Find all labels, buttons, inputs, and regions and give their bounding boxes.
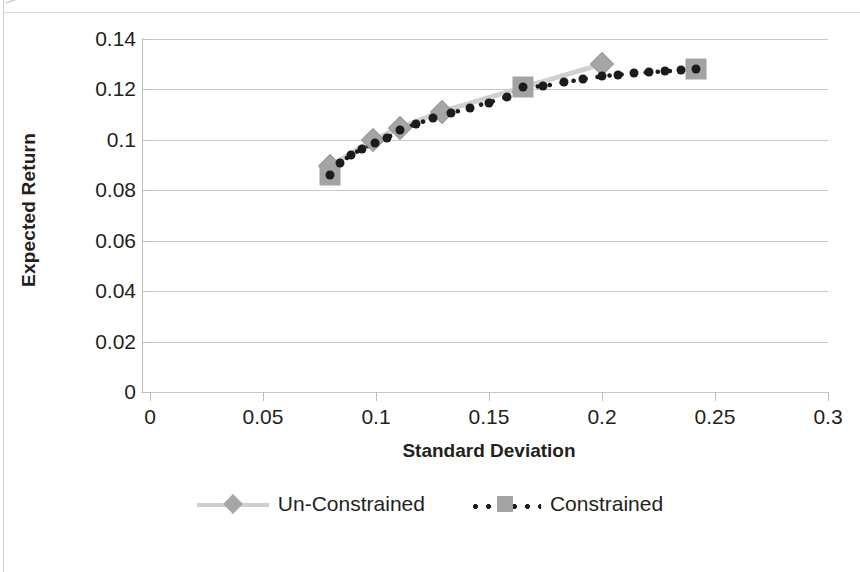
y-axis-tick bbox=[142, 140, 150, 141]
y-axis-tick-label: 0.04 bbox=[95, 279, 136, 303]
data-point-dot bbox=[485, 98, 494, 107]
x-axis-tick-label: 0.15 bbox=[469, 405, 510, 429]
chart-legend: Un-Constrained Constrained bbox=[0, 492, 860, 516]
data-point-dot bbox=[598, 72, 607, 81]
x-axis-tick-label: 0.3 bbox=[813, 405, 842, 429]
x-axis-tick-label: 0.1 bbox=[361, 405, 390, 429]
data-point-dot bbox=[539, 82, 548, 91]
square-marker-icon bbox=[497, 496, 513, 512]
data-point-dot bbox=[446, 109, 455, 118]
series-lines bbox=[150, 39, 828, 392]
data-point-dot bbox=[661, 67, 670, 76]
x-axis-tick bbox=[828, 392, 829, 401]
series-layer bbox=[150, 39, 828, 392]
data-point-dot bbox=[358, 144, 367, 153]
x-axis-title-label: Standard Deviation bbox=[402, 440, 575, 461]
y-axis-tick bbox=[142, 342, 150, 343]
data-point-dot bbox=[629, 69, 638, 78]
x-axis-tick bbox=[263, 392, 264, 401]
legend-label-unconstrained: Un-Constrained bbox=[278, 492, 425, 516]
x-axis-tick-label: 0.2 bbox=[587, 405, 616, 429]
data-point-dot bbox=[613, 70, 622, 79]
y-axis-tick-label: 0.08 bbox=[95, 178, 136, 202]
y-axis-tick-label: 0 bbox=[124, 380, 136, 404]
y-axis-tick bbox=[142, 291, 150, 292]
y-axis-tick-label: 0.12 bbox=[95, 77, 136, 101]
plot-area: 00.020.040.060.080.10.120.1400.050.10.15… bbox=[150, 39, 828, 392]
legend-key-constrained bbox=[469, 494, 541, 514]
y-axis-tick bbox=[142, 392, 150, 393]
data-point-dot bbox=[395, 125, 404, 134]
data-point-dot bbox=[325, 170, 334, 179]
data-point-dot bbox=[370, 138, 379, 147]
data-point-dot bbox=[428, 114, 437, 123]
data-point-dot bbox=[677, 66, 686, 75]
y-axis-tick-label: 0.14 bbox=[95, 27, 136, 51]
diamond-marker-icon bbox=[223, 494, 243, 514]
x-axis-title: Standard Deviation bbox=[150, 440, 828, 462]
data-point-dot bbox=[336, 158, 345, 167]
data-point-dot bbox=[347, 150, 356, 159]
y-axis-tick bbox=[142, 89, 150, 90]
x-axis-tick-label: 0.05 bbox=[243, 405, 284, 429]
x-axis-tick bbox=[602, 392, 603, 401]
legend-label-constrained: Constrained bbox=[550, 492, 663, 516]
x-axis-tick bbox=[376, 392, 377, 401]
y-axis-tick bbox=[142, 241, 150, 242]
data-point-dot bbox=[503, 92, 512, 101]
scan-edge-left bbox=[3, 0, 4, 572]
legend-item-constrained: Constrained bbox=[469, 492, 663, 516]
x-axis-tick-label: 0.25 bbox=[695, 405, 736, 429]
data-point-dot bbox=[578, 75, 587, 84]
data-point-dot bbox=[645, 68, 654, 77]
y-axis-title: Expected Return bbox=[16, 50, 42, 370]
y-axis-tick bbox=[142, 190, 150, 191]
legend-key-unconstrained bbox=[197, 494, 269, 514]
y-axis-tick-label: 0.1 bbox=[107, 128, 136, 152]
scan-corner-mark bbox=[6, 0, 20, 3]
data-point-dot bbox=[383, 133, 392, 142]
data-point-dot bbox=[692, 65, 701, 74]
data-point-dot bbox=[518, 83, 527, 92]
x-axis-tick-label: 0 bbox=[144, 405, 156, 429]
data-point-dot bbox=[559, 78, 568, 87]
chart-figure: Expected Return 00.020.040.060.080.10.12… bbox=[0, 0, 860, 572]
data-point-dot bbox=[411, 120, 420, 129]
data-point-dot bbox=[465, 103, 474, 112]
y-axis-tick bbox=[142, 39, 150, 40]
y-axis-line bbox=[142, 38, 143, 393]
y-axis-title-label: Expected Return bbox=[18, 133, 40, 287]
y-axis-tick-label: 0.06 bbox=[95, 229, 136, 253]
x-axis-tick bbox=[489, 392, 490, 401]
y-axis-tick-label: 0.02 bbox=[95, 330, 136, 354]
x-axis-tick bbox=[150, 392, 151, 401]
x-axis-tick bbox=[715, 392, 716, 401]
scan-edge-top bbox=[3, 12, 860, 13]
legend-item-unconstrained: Un-Constrained bbox=[197, 492, 425, 516]
